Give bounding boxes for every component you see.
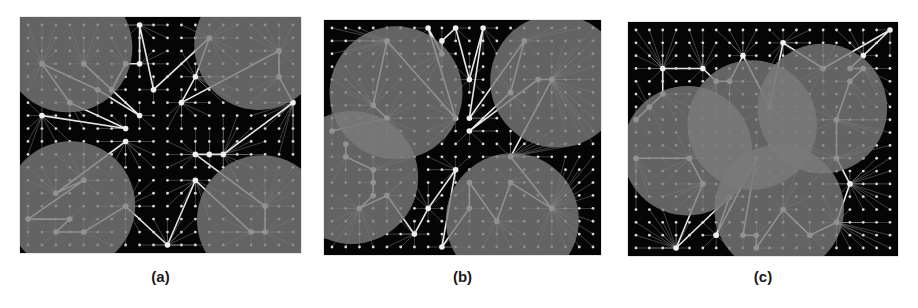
cluster-head-node [480, 25, 486, 31]
cluster-head-node [193, 74, 199, 80]
cluster-head-node [740, 53, 746, 59]
cluster-head-node [137, 22, 143, 28]
cluster-head-node [151, 87, 157, 93]
cluster-head-node [467, 128, 473, 134]
coverage-region-circle [20, 17, 132, 112]
cluster-head-node [713, 232, 719, 238]
cluster-head-node [179, 100, 185, 106]
subfigure-b-network-plot [324, 20, 601, 255]
coverage-region-circle [194, 17, 301, 110]
cluster-head-node [439, 244, 445, 250]
cluster-head-node [193, 177, 199, 183]
cluster-head-node [137, 61, 143, 67]
cluster-head-node [207, 152, 213, 158]
cluster-head-node [780, 40, 786, 46]
cluster-head-node [123, 126, 129, 132]
cluster-head-node [467, 77, 473, 83]
subfigure-c-caption: (c) [733, 268, 793, 285]
cluster-head-node [220, 152, 226, 158]
cluster-head-node [700, 66, 706, 72]
cluster-head-node [660, 66, 666, 72]
cluster-head-node [137, 113, 143, 119]
cluster-head-node [453, 167, 459, 173]
subfigure-a-caption: (a) [131, 268, 191, 285]
coverage-region-circle [20, 141, 135, 253]
cluster-head-node [887, 27, 893, 33]
cluster-head-node [439, 38, 445, 44]
cluster-head-node [673, 245, 679, 251]
cluster-head-node [193, 152, 199, 158]
cluster-head-node [467, 115, 473, 121]
cluster-head-node [425, 25, 431, 31]
cluster-head-node [425, 206, 431, 212]
cluster-head-node [165, 242, 171, 248]
cluster-head-node [123, 139, 129, 145]
cluster-head-node [453, 25, 459, 31]
coverage-region-circle [197, 155, 301, 253]
coverage-region-circle [490, 20, 601, 148]
subfigure-c-network-plot [628, 22, 898, 256]
cluster-head-node [847, 181, 853, 187]
cluster-head-node [412, 231, 418, 237]
subfigure-a-network-plot [20, 17, 301, 253]
subfigure-b-caption: (b) [433, 268, 493, 285]
cluster-head-node [39, 113, 45, 119]
coverage-region-circle [446, 153, 579, 255]
